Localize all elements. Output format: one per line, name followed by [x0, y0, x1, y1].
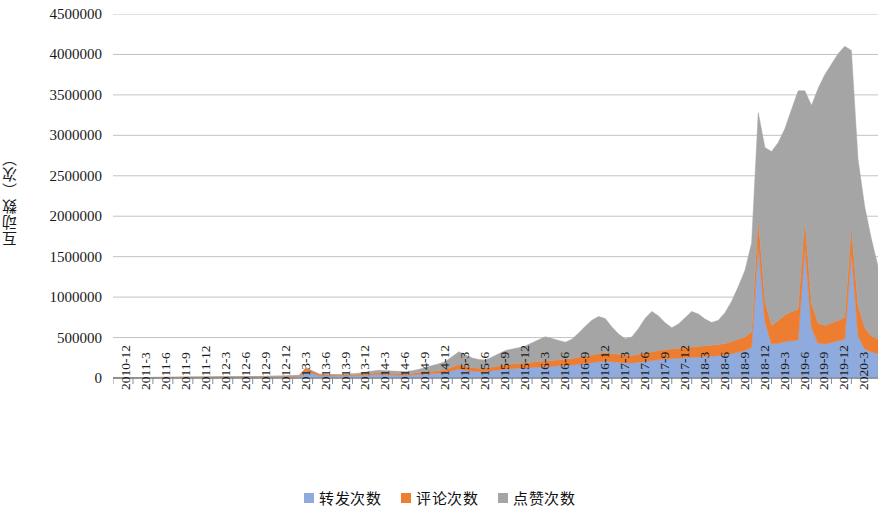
x-tick-label: 2015-9 — [497, 352, 513, 390]
x-tick-label: 2014-6 — [397, 352, 413, 390]
x-tick-label: 2011-3 — [138, 352, 154, 390]
y-tick-label: 4500000 — [50, 6, 103, 23]
x-tick-label: 2011-6 — [158, 352, 174, 390]
x-tick-label: 2019-12 — [836, 345, 852, 390]
x-tick-label: 2016-12 — [597, 345, 613, 390]
x-tick-label: 2020-3 — [856, 352, 872, 390]
x-tick-label: 2018-12 — [757, 345, 773, 390]
x-tick-label: 2012-9 — [258, 352, 274, 390]
x-tick-label: 2013-6 — [318, 352, 334, 390]
legend-item[interactable]: 评论次数 — [401, 487, 478, 508]
stacked-area-plot — [113, 14, 878, 386]
y-tick-label: 3500000 — [50, 86, 103, 103]
x-tick-label: 2019-3 — [777, 352, 793, 390]
chart-container: 互动数（次） 050000010000001500000200000025000… — [0, 0, 879, 511]
y-tick-label: 1000000 — [50, 289, 103, 306]
legend-item[interactable]: 点赞次数 — [498, 487, 575, 508]
x-tick-label: 2017-3 — [617, 352, 633, 390]
x-tick-label: 2014-3 — [377, 352, 393, 390]
plot-area — [113, 14, 878, 378]
x-tick-label: 2016-9 — [577, 352, 593, 390]
legend-label: 点赞次数 — [513, 487, 575, 508]
x-tick-label: 2015-3 — [457, 352, 473, 390]
y-tick-label: 1500000 — [50, 248, 103, 265]
x-tick-label: 2012-6 — [238, 352, 254, 390]
x-tick-label: 2013-3 — [298, 352, 314, 390]
x-tick-label: 2010-12 — [118, 345, 134, 390]
legend-label: 评论次数 — [416, 487, 478, 508]
x-tick-label: 2011-9 — [178, 352, 194, 390]
x-tick-label: 2015-12 — [517, 345, 533, 390]
y-tick-label: 2500000 — [50, 167, 103, 184]
legend-swatch-icon — [304, 493, 314, 503]
x-tick-label: 2012-12 — [278, 345, 294, 390]
y-tick-label: 500000 — [57, 329, 102, 346]
x-tick-label: 2012-3 — [218, 352, 234, 390]
x-tick-label: 2018-9 — [737, 352, 753, 390]
x-tick-label: 2017-6 — [637, 352, 653, 390]
x-tick-label: 2019-6 — [797, 352, 813, 390]
legend-swatch-icon — [498, 493, 508, 503]
y-tick-label: 2000000 — [50, 208, 103, 225]
x-axis-tick-labels: 2010-122011-32011-62011-92011-122012-320… — [0, 382, 879, 482]
x-tick-label: 2014-12 — [437, 345, 453, 390]
x-tick-label: 2017-9 — [657, 352, 673, 390]
x-tick-label: 2016-6 — [557, 352, 573, 390]
y-tick-label: 4000000 — [50, 46, 103, 63]
legend-swatch-icon — [401, 493, 411, 503]
x-tick-label: 2013-12 — [357, 345, 373, 390]
x-tick-label: 2018-6 — [717, 352, 733, 390]
y-tick-label: 3000000 — [50, 127, 103, 144]
chart-legend: 转发次数评论次数点赞次数 — [0, 487, 879, 508]
x-tick-label: 2018-3 — [697, 352, 713, 390]
x-tick-label: 2014-9 — [417, 352, 433, 390]
legend-item[interactable]: 转发次数 — [304, 487, 381, 508]
x-tick-label: 2016-3 — [537, 352, 553, 390]
x-tick-label: 2017-12 — [677, 345, 693, 390]
legend-label: 转发次数 — [319, 487, 381, 508]
x-tick-label: 2011-12 — [198, 346, 214, 391]
y-axis-tick-labels: 0500000100000015000002000000250000030000… — [28, 0, 106, 390]
x-tick-label: 2019-9 — [816, 352, 832, 390]
x-tick-label: 2013-9 — [338, 352, 354, 390]
x-tick-label: 2015-6 — [477, 352, 493, 390]
